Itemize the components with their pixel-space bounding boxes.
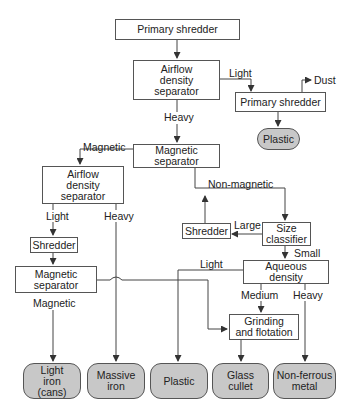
magnetic-separator-left: Magnetic separator <box>15 266 97 293</box>
output-glass-cullet: Glass cullet <box>212 363 269 399</box>
label-medium: Medium <box>240 290 279 301</box>
airflow-separator-top: Airflow density separator <box>133 60 220 100</box>
label-heavy-left: Heavy <box>103 211 135 222</box>
label-non-magnetic: Non-magnetic <box>207 179 274 190</box>
primary-shredder-right: Primary shredder <box>235 92 326 112</box>
label-dust: Dust <box>313 75 337 86</box>
output-non-ferrous-metal: Non-ferrous metal <box>273 363 336 399</box>
label-magnetic-left: Magnetic <box>32 298 77 309</box>
label-heavy-top: Heavy <box>163 112 195 123</box>
shredder-left: Shredder <box>30 237 78 253</box>
size-classifier: Size classifier <box>262 222 311 246</box>
shredder-right: Shredder <box>182 223 231 239</box>
label-light-aqueous: Light <box>199 259 224 270</box>
label-small: Small <box>293 248 321 259</box>
primary-shredder-top: Primary shredder <box>115 19 240 40</box>
output-plastic: Plastic <box>150 363 208 399</box>
label-light-left: Light <box>45 211 70 222</box>
output-light-iron: Light iron (cans) <box>23 363 81 399</box>
label-magnetic-center: Magnetic <box>82 142 127 153</box>
label-light-top: Light <box>228 68 253 79</box>
label-heavy-aqueous: Heavy <box>292 290 324 301</box>
output-plastic-right: Plastic <box>257 128 300 150</box>
label-large: Large <box>233 220 262 231</box>
aqueous-density: Aqueous density <box>243 260 329 284</box>
output-massive-iron: Massive iron <box>87 363 145 399</box>
airflow-separator-left: Airflow density separator <box>42 166 124 204</box>
grinding-flotation: Grinding and flotation <box>229 314 299 340</box>
magnetic-separator-center: Magnetic separator <box>133 144 220 168</box>
